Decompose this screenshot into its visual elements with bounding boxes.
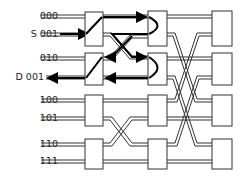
stage1-stage2-wires — [103, 15, 148, 163]
stage2-stage3-wires — [167, 15, 212, 163]
switch-s1-3 — [85, 139, 103, 169]
stage-1-switches — [85, 12, 103, 169]
switch-s1-0 — [85, 12, 103, 46]
switch-s2-3 — [148, 139, 167, 169]
omega-network-diagram: 000 S 001 010 D 001 100 101 110 111 — [0, 0, 244, 179]
stage-2-switches — [148, 11, 167, 169]
switch-s3-1 — [212, 53, 232, 85]
switch-s1-2 — [85, 95, 103, 126]
switch-s3-3 — [212, 139, 232, 169]
switch-s3-2 — [212, 95, 232, 126]
input-label-destination: D 001 — [16, 71, 44, 82]
switch-s2-2 — [148, 95, 167, 126]
stage-3-switches — [212, 11, 232, 169]
switch-s3-0 — [212, 11, 232, 46]
